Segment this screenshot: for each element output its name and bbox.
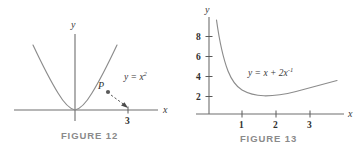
curve-equation-label: y = x2 (123, 70, 148, 82)
y-tick-label-6: 6 (196, 52, 201, 62)
y-axis-label: y (204, 4, 210, 15)
figure-sheet: P 3 x y y = x2 FIGURE 12 (0, 0, 358, 156)
x-tick-label-3: 3 (125, 116, 130, 126)
y-tick-label-4: 4 (196, 72, 201, 82)
point-p-label: P (97, 80, 104, 91)
x-axis-label: x (162, 104, 168, 115)
figure-12-plot: P 3 x y y = x2 (0, 0, 179, 130)
curve-equation-label: y = x + 2x-1 (247, 66, 293, 78)
curve-equation-text: y = x + 2x (247, 68, 289, 78)
x-tick-label-1: 1 (239, 120, 244, 130)
x-tick-label-3: 3 (307, 120, 312, 130)
figure-13: 2 4 6 8 1 2 3 x y y = x + 2x-1 FIGURE 13 (179, 0, 358, 156)
figure-12-caption: FIGURE 12 (0, 130, 179, 141)
point-p-marker (106, 90, 110, 94)
y-tick-label-2: 2 (196, 92, 201, 102)
curve-equation-exponent: 2 (144, 70, 148, 77)
x-tick-label-2: 2 (273, 120, 278, 130)
x-axis-label: x (347, 108, 353, 119)
hyperbola-curve (217, 20, 338, 96)
y-tick-label-8: 8 (196, 32, 201, 42)
figure-13-caption: FIGURE 13 (179, 133, 358, 144)
curve-equation-text: y = x (123, 72, 144, 82)
figure-12: P 3 x y y = x2 FIGURE 12 (0, 0, 179, 156)
y-axis-label: y (70, 19, 76, 30)
curve-equation-exponent: -1 (288, 66, 293, 73)
figure-13-plot: 2 4 6 8 1 2 3 x y y = x + 2x-1 (179, 0, 358, 133)
